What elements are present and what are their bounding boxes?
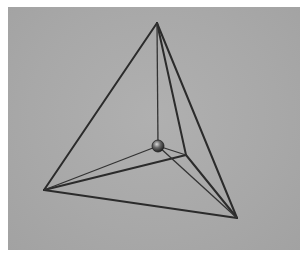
tetrahedron-sculpture (0, 0, 308, 257)
spoke-left (44, 146, 158, 190)
spoke-top (157, 23, 158, 146)
edge-left-right (44, 190, 237, 218)
edge-right-inner (186, 155, 237, 218)
center-sphere (152, 140, 164, 152)
edge-top-right (157, 23, 237, 218)
spoke-right (158, 146, 237, 218)
edge-top-inner (157, 23, 186, 155)
edge-top-left (44, 23, 157, 190)
